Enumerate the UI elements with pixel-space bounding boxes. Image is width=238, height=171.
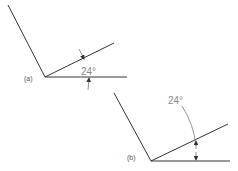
angled-line-b <box>151 124 228 161</box>
angle-text-a: 24° <box>81 66 96 77</box>
arrow-top-a <box>79 49 84 59</box>
leg-line-a <box>8 5 45 77</box>
diagram-b: 24° (b) <box>114 93 230 162</box>
arrow-bottom-a <box>88 78 89 90</box>
diagram-a: 24° (a) <box>8 5 127 90</box>
angle-text-b: 24° <box>168 95 183 106</box>
angled-line-a <box>45 43 114 77</box>
leg-line-b <box>114 93 151 161</box>
label-b: (b) <box>127 154 136 162</box>
angle-dimension-figure: 24° (a) 24° (b) <box>0 0 238 171</box>
label-a: (a) <box>24 75 33 83</box>
